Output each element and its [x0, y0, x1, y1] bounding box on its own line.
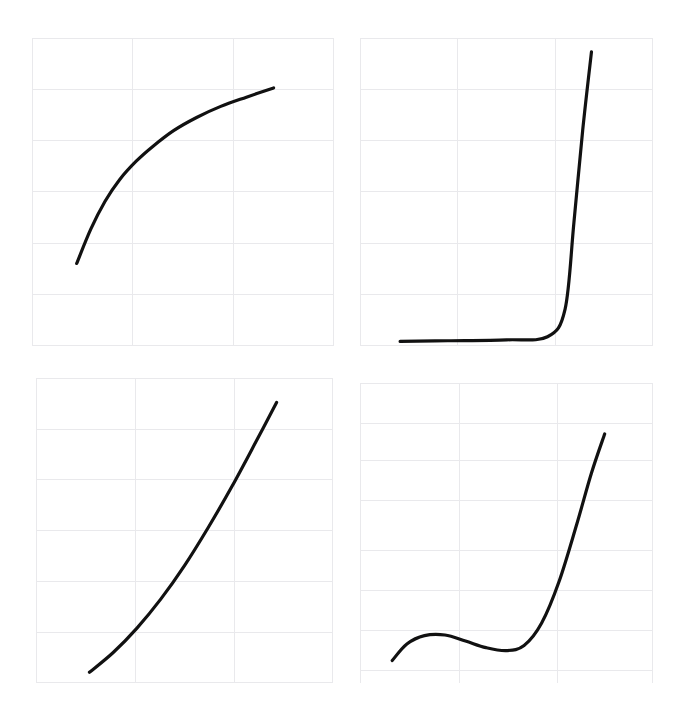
- panel-bottom-left-plot: [36, 378, 333, 683]
- gridlines-bottom-right: [360, 383, 653, 683]
- panel-bottom-left: [36, 378, 333, 683]
- figure-root: [0, 0, 691, 709]
- curve-top-left: [77, 88, 274, 264]
- panel-top-left: [32, 38, 334, 346]
- curve-bottom-left: [89, 402, 276, 672]
- curve-bottom-right: [392, 434, 604, 661]
- gridlines-bottom-left: [36, 378, 333, 683]
- panel-bottom-right-plot: [360, 383, 653, 683]
- gridlines-top-left: [32, 38, 334, 346]
- panel-top-left-plot: [32, 38, 334, 346]
- gridlines-top-right: [360, 38, 653, 346]
- panel-top-right: [360, 38, 653, 346]
- panel-bottom-right: [360, 383, 653, 683]
- curve-top-right: [400, 52, 591, 342]
- panel-top-right-plot: [360, 38, 653, 346]
